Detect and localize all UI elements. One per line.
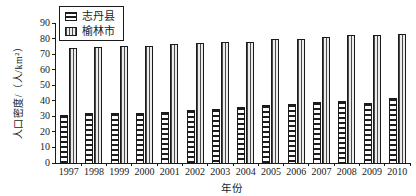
y-tick-label-70: 70 xyxy=(40,49,50,59)
x-tick-label-1999: 1999 xyxy=(107,167,132,177)
bar-zhidan-county-2008 xyxy=(338,101,346,163)
bar-zhidan-county-2000 xyxy=(136,113,144,163)
bar-zhidan-county-2005 xyxy=(262,105,270,163)
bar-yulin-city-1999 xyxy=(120,46,128,163)
bar-group-2010 xyxy=(385,23,410,163)
bar-yulin-city-2005 xyxy=(271,39,279,163)
bar-yulin-city-2010 xyxy=(398,34,406,163)
bar-zhidan-county-1999 xyxy=(111,113,119,163)
y-tick-label-40: 40 xyxy=(40,96,50,106)
bar-group-1997 xyxy=(56,23,81,163)
legend-item-zhidan-county: 志丹县 xyxy=(65,10,115,22)
x-tick-label-2008: 2008 xyxy=(334,167,359,177)
zhidan-county-swatch-icon xyxy=(65,12,77,21)
x-tick-mark-7 xyxy=(233,163,234,166)
bar-group-2009 xyxy=(359,23,384,163)
x-tick-mark-6 xyxy=(207,163,208,166)
bar-zhidan-county-2004 xyxy=(237,107,245,163)
x-tick-label-2004: 2004 xyxy=(233,167,258,177)
legend-item-yulin-city: 榆林市 xyxy=(65,25,115,37)
x-tick-label-1997: 1997 xyxy=(56,167,81,177)
bar-group-2004 xyxy=(233,23,258,163)
y-tick-label-50: 50 xyxy=(40,80,50,90)
bar-yulin-city-2001 xyxy=(170,44,178,163)
x-tick-label-2010: 2010 xyxy=(385,167,410,177)
bar-group-2002 xyxy=(182,23,207,163)
bar-group-2005 xyxy=(258,23,283,163)
x-tick-mark-3 xyxy=(131,163,132,166)
x-tick-mark-8 xyxy=(258,163,259,166)
x-tick-mark-5 xyxy=(182,163,183,166)
bar-zhidan-county-2002 xyxy=(187,110,195,163)
x-axis-title: 年份 xyxy=(55,180,409,195)
bar-group-2003 xyxy=(208,23,233,163)
y-tick-label-20: 20 xyxy=(40,127,50,137)
y-tick-label-80: 80 xyxy=(40,34,50,44)
y-axis-title: 人口密度/（人/km²） xyxy=(10,16,23,166)
bar-zhidan-county-1997 xyxy=(60,115,68,163)
bar-zhidan-county-2003 xyxy=(212,109,220,163)
x-tick-label-2000: 2000 xyxy=(132,167,157,177)
bar-zhidan-county-2001 xyxy=(161,112,169,163)
bar-group-2001 xyxy=(157,23,182,163)
y-tick-label-90: 90 xyxy=(40,18,50,28)
legend-label-zhidan-county: 志丹县 xyxy=(82,10,115,22)
bar-yulin-city-1998 xyxy=(94,47,102,163)
bar-group-2000 xyxy=(132,23,157,163)
bar-yulin-city-2007 xyxy=(322,37,330,163)
x-tick-label-1998: 1998 xyxy=(81,167,106,177)
bar-zhidan-county-2007 xyxy=(313,102,321,163)
bar-yulin-city-1997 xyxy=(69,48,77,163)
bar-group-1998 xyxy=(81,23,106,163)
y-tick-label-10: 10 xyxy=(40,142,50,152)
bar-group-2006 xyxy=(284,23,309,163)
x-tick-mark-13 xyxy=(384,163,385,166)
bar-yulin-city-2000 xyxy=(145,46,153,163)
bar-group-2007 xyxy=(309,23,334,163)
x-tick-mark-1 xyxy=(81,163,82,166)
x-tick-mark-12 xyxy=(359,163,360,166)
bar-yulin-city-2006 xyxy=(297,39,305,163)
bar-zhidan-county-2009 xyxy=(364,103,372,163)
x-tick-mark-11 xyxy=(334,163,335,166)
x-tick-label-2005: 2005 xyxy=(258,167,283,177)
bar-zhidan-county-1998 xyxy=(85,113,93,163)
bar-group-1999 xyxy=(107,23,132,163)
x-tick-label-2007: 2007 xyxy=(309,167,334,177)
y-tick-label-60: 60 xyxy=(40,65,50,75)
bar-yulin-city-2003 xyxy=(221,42,229,163)
x-tick-mark-9 xyxy=(283,163,284,166)
x-tick-label-2001: 2001 xyxy=(157,167,182,177)
x-tick-mark-14 xyxy=(410,163,411,166)
population-density-bar-chart: 人口密度/（人/km²） 志丹县榆林市 01020304050607080901… xyxy=(0,0,416,196)
x-tick-mark-2 xyxy=(106,163,107,166)
plot-area: 志丹县榆林市 010203040506070809019971998199920… xyxy=(55,23,410,164)
yulin-city-swatch-icon xyxy=(65,27,77,36)
bar-zhidan-county-2006 xyxy=(288,104,296,163)
bar-group-2008 xyxy=(334,23,359,163)
bar-yulin-city-2004 xyxy=(246,42,254,163)
x-tick-label-2009: 2009 xyxy=(359,167,384,177)
y-tick-label-30: 30 xyxy=(40,111,50,121)
x-tick-mark-10 xyxy=(308,163,309,166)
x-tick-label-2002: 2002 xyxy=(182,167,207,177)
y-tick-label-0: 0 xyxy=(45,158,50,168)
x-tick-label-2003: 2003 xyxy=(208,167,233,177)
legend-label-yulin-city: 榆林市 xyxy=(82,25,115,37)
legend: 志丹县榆林市 xyxy=(59,6,124,41)
bar-yulin-city-2008 xyxy=(347,35,355,163)
x-tick-label-2006: 2006 xyxy=(284,167,309,177)
bar-yulin-city-2009 xyxy=(373,35,381,163)
x-tick-mark-4 xyxy=(157,163,158,166)
bar-yulin-city-2002 xyxy=(196,43,204,163)
bar-zhidan-county-2010 xyxy=(389,98,397,163)
